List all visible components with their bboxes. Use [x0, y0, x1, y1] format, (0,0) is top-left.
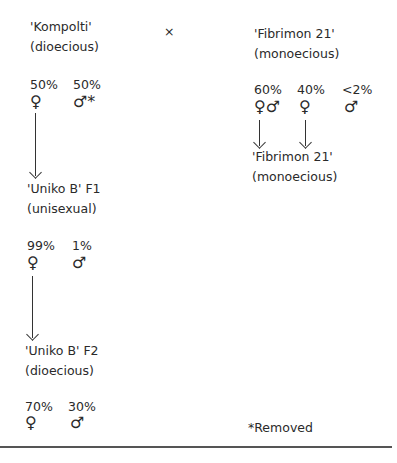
- arrow-down-icon: [26, 328, 39, 341]
- f2-name: 'Uniko B' F2: [25, 341, 99, 361]
- fibrimon-type: (monoecious): [254, 44, 339, 64]
- kompolti-name: 'Kompolti': [30, 17, 92, 37]
- fibrimon-offspring-name: 'Fibrimon 21': [252, 147, 333, 167]
- male-symbol-icon: ♂: [70, 415, 84, 431]
- fibrimon-offspring-type: (monoecious): [252, 167, 337, 187]
- cross-symbol: ×: [164, 22, 174, 42]
- fibrimon-name: 'Fibrimon 21': [254, 24, 335, 44]
- female-symbol-icon: ♀: [299, 99, 311, 115]
- f2-type: (dioecious): [25, 361, 94, 381]
- f1-type: (unisexual): [27, 199, 97, 219]
- female-symbol-icon: ♀: [27, 255, 39, 271]
- footnote: *Removed: [248, 418, 313, 438]
- kompolti-type: (dioecious): [30, 37, 99, 57]
- bottom-rule: [0, 446, 392, 448]
- female-symbol-icon: ♀: [25, 415, 37, 431]
- male-symbol-icon: ♂: [72, 255, 86, 271]
- monoecious-symbol-icon: ♀♂: [254, 99, 280, 115]
- male-symbol-icon: ♂: [344, 99, 358, 115]
- male-symbol-icon: ♂*: [73, 94, 95, 110]
- arrow-down-icon: [29, 166, 42, 179]
- f1-name: 'Uniko B' F1: [27, 179, 101, 199]
- female-symbol-icon: ♀: [30, 94, 42, 110]
